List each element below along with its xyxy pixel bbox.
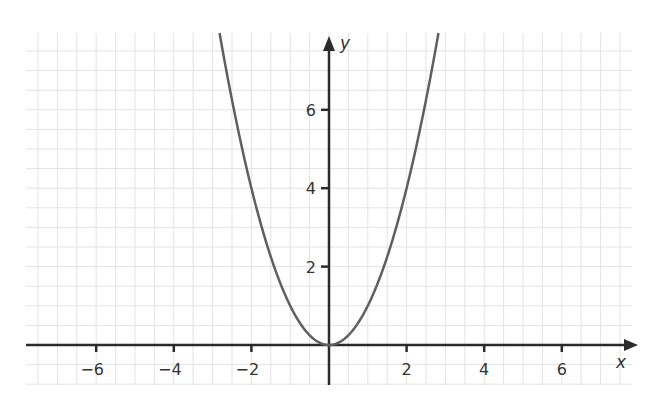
y-tick-label: 2 bbox=[306, 258, 316, 277]
function-graph: −6−4−2246246 x y bbox=[0, 0, 652, 409]
x-axis-label: x bbox=[615, 352, 627, 372]
x-tick-label: −2 bbox=[236, 360, 260, 379]
axis-ticks: −6−4−2246246 bbox=[80, 101, 566, 379]
x-tick-label: 6 bbox=[557, 360, 567, 379]
x-tick-label: −4 bbox=[158, 360, 182, 379]
x-tick-label: 2 bbox=[402, 360, 412, 379]
x-axis-arrow-icon bbox=[624, 339, 638, 351]
x-tick-label: −6 bbox=[80, 360, 104, 379]
y-tick-label: 4 bbox=[306, 179, 316, 198]
y-axis-label: y bbox=[339, 33, 351, 53]
y-tick-label: 6 bbox=[306, 101, 316, 120]
y-axis-arrow-icon bbox=[323, 36, 335, 51]
axes bbox=[26, 36, 638, 385]
x-tick-label: 4 bbox=[479, 360, 489, 379]
